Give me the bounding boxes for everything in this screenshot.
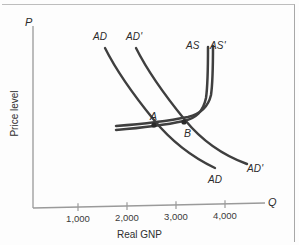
x-tick-label-1000: 1,000 [58,213,98,224]
point-a-label: A [150,110,157,122]
as-curve-label-top: AS [186,40,200,51]
ad-prime-curve-label-top: AD' [126,31,142,42]
ad-curve [105,48,215,168]
chart-canvas [0,0,299,245]
y-axis-title: Price level [9,79,20,149]
axes-group [33,26,265,211]
x-axis-symbol-label: Q [268,196,277,208]
as-prime-curve [116,46,213,126]
aggregate-demand-curves [105,48,247,168]
point-b-marker [181,119,186,124]
ad-prime-curve-label-bottom: AD' [247,163,263,174]
point-b-label: B [184,127,191,139]
ad-curve-label-top: AD [93,31,107,42]
x-tick-label-3000: 3,000 [156,211,196,222]
x-axis-line [33,203,265,208]
y-axis-symbol-label: P [25,16,33,28]
x-axis-title: Real GNP [117,229,162,240]
point-a-marker [151,122,156,127]
ad-curve-label-bottom: AD [208,174,222,185]
ad-prime-curve [136,48,247,164]
x-tick-label-4000: 4,000 [205,210,245,221]
ad-as-chart-figure: P Q Price level Real GNP 1,000 2,000 3,0… [0,0,299,245]
as-prime-curve-label-top: AS' [210,40,226,51]
x-tick-label-2000: 2,000 [107,212,147,223]
